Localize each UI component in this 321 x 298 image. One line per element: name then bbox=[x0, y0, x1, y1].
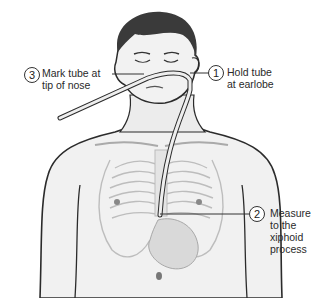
step-2-line1: Measure bbox=[270, 207, 311, 219]
step-1-line2: at earlobe bbox=[227, 78, 274, 90]
step-1-line1: Hold tube bbox=[227, 66, 274, 78]
step-1-badge: 1 bbox=[208, 65, 224, 81]
step-3-label: Mark tube at tip of nose bbox=[42, 67, 100, 91]
step-2-line3: xiphoid bbox=[270, 231, 311, 243]
step-3-badge: 3 bbox=[24, 67, 40, 83]
step-2-line4: process bbox=[270, 243, 311, 255]
step-2-line2: to the bbox=[270, 219, 311, 231]
step-3-line1: Mark tube at bbox=[42, 67, 100, 79]
step-1-label: Hold tube at earlobe bbox=[227, 66, 274, 90]
step-2-badge: 2 bbox=[249, 206, 265, 222]
step-2-label: Measure to the xiphoid process bbox=[270, 207, 311, 255]
step-3-line2: tip of nose bbox=[42, 79, 100, 91]
